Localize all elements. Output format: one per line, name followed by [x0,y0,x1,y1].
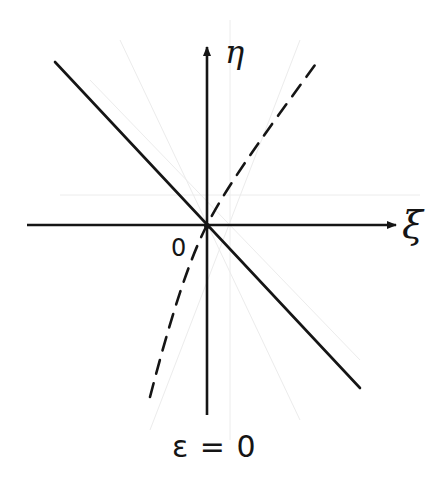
origin-point [204,223,210,229]
dashed-trajectory [150,65,315,397]
x-axis-label: ξ [402,206,423,244]
faint-guides [60,20,420,440]
diagram-caption: ε = 0 [172,432,257,462]
origin-label: 0 [171,236,186,260]
y-axis-label: η [225,36,244,68]
phase-diagram [0,0,445,480]
